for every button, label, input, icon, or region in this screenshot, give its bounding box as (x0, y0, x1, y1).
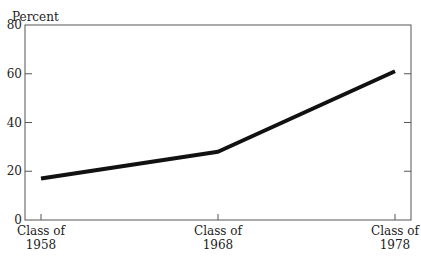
x-tick-label: Class of (194, 224, 244, 238)
x-tick-label: Class of (371, 224, 421, 238)
x-tick-label: 1968 (203, 238, 234, 252)
y-axis-ticks: 020406080 (7, 18, 411, 227)
series-line (41, 71, 395, 178)
x-tick-label: 1978 (380, 238, 411, 252)
y-tick-label: 40 (7, 116, 22, 130)
y-tick-label: 80 (7, 18, 22, 32)
y-tick-label: 60 (7, 67, 22, 81)
x-tick-label: Class of (17, 224, 67, 238)
line-chart: Percent 020406080 Class of1958Class of19… (0, 0, 421, 256)
x-tick-label: 1958 (26, 238, 57, 252)
y-tick-label: 20 (7, 164, 22, 178)
plot-frame (25, 25, 411, 220)
